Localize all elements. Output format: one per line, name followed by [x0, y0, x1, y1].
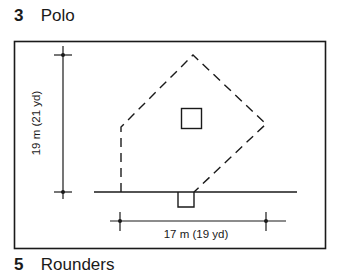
running-track-dashed — [121, 55, 266, 192]
vertical-dimension-label: 19 m (21 yd) — [30, 91, 42, 156]
section-title: Rounders — [41, 255, 115, 274]
rounders-pitch-diagram: 19 m (21 yd) 17 m (19 yd) — [0, 0, 347, 276]
vertical-dimension-point-bottom — [61, 190, 65, 194]
section-number: 5 — [14, 255, 36, 275]
diagram-frame — [15, 42, 326, 249]
batting-square — [178, 192, 194, 207]
bowling-square — [182, 109, 202, 129]
horizontal-dimension: 17 m (19 yd) — [110, 212, 286, 240]
horizontal-dimension-point-right — [264, 219, 268, 223]
horizontal-dimension-point-left — [118, 219, 122, 223]
section-heading-rounders: 5 Rounders — [14, 255, 114, 275]
vertical-dimension-point-top — [61, 53, 65, 57]
vertical-dimension: 19 m (21 yd) — [30, 46, 72, 199]
horizontal-dimension-label: 17 m (19 yd) — [164, 228, 229, 240]
